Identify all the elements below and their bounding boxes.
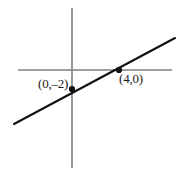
line-graph-figure: (0,–2) (4,0): [0, 0, 184, 174]
data-point-label-x-intercept: (4,0): [119, 72, 143, 86]
data-point-y-intercept: [69, 86, 75, 92]
coordinate-plane: [0, 0, 184, 174]
data-point-label-y-intercept: (0,–2): [38, 77, 68, 91]
